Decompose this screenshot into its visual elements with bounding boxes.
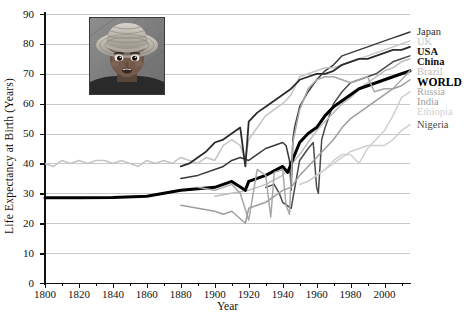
series-lines	[0, 0, 464, 312]
series-line-nigeria	[300, 125, 410, 185]
x-tick-minor	[334, 283, 335, 286]
portrait-graphic	[90, 18, 164, 94]
y-tick-label: 70	[10, 68, 34, 79]
y-tick-label: 30	[10, 188, 34, 199]
x-tick-minor	[62, 283, 63, 286]
legend-item-nigeria: Nigeria	[417, 120, 449, 131]
x-tick-minor	[368, 283, 369, 286]
y-tick-label: 60	[10, 98, 34, 109]
y-tick-label: 40	[10, 158, 34, 169]
y-tick	[40, 223, 45, 224]
y-tick-label: 0	[10, 278, 34, 289]
y-tick-label: 10	[10, 248, 34, 259]
x-tick-minor	[198, 283, 199, 286]
y-tick	[40, 253, 45, 254]
x-tick-minor	[402, 283, 403, 286]
y-tick	[40, 134, 45, 135]
y-tick	[40, 193, 45, 194]
x-tick-minor	[96, 283, 97, 286]
y-tick	[40, 44, 45, 45]
y-tick	[40, 163, 45, 164]
x-tick-minor	[300, 283, 301, 286]
x-tick-minor	[130, 283, 131, 286]
y-tick-label: 90	[10, 9, 34, 20]
y-tick-label: 80	[10, 38, 34, 49]
chart-figure: Life Expectancy at Birth (Years)	[0, 0, 464, 312]
x-axis-title: Year	[45, 300, 410, 312]
series-line-brazil	[215, 59, 410, 196]
y-tick	[40, 74, 45, 75]
x-tick-minor	[232, 283, 233, 286]
series-line-usa	[181, 47, 410, 167]
legend-item-ethiopia: Ethiopia	[417, 107, 453, 118]
y-tick	[40, 104, 45, 105]
x-tick-label: 2000	[365, 289, 405, 300]
y-tick	[40, 14, 45, 15]
x-tick-minor	[266, 283, 267, 286]
child-portrait-photo	[89, 17, 165, 95]
y-tick-label: 50	[10, 128, 34, 139]
y-tick-label: 20	[10, 218, 34, 229]
x-tick-minor	[164, 283, 165, 286]
